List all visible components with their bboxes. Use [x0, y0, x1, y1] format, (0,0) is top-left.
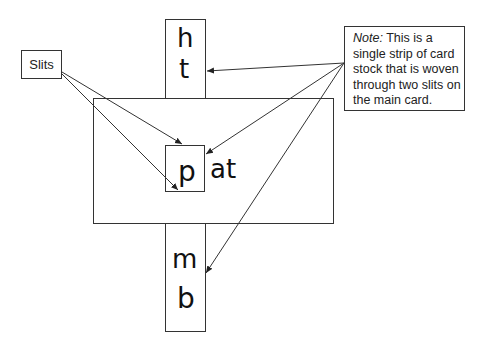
note-arrow-top-strip [207, 63, 344, 71]
arrow-layer [0, 0, 484, 348]
note-arrow-bottom-strip [206, 63, 344, 273]
note-arrow-middle-strip [206, 63, 344, 154]
diagram-canvas: h t p at m b Slits Note: This is a singl… [0, 0, 484, 348]
slits-arrow-bottom-slit [62, 74, 178, 190]
slits-arrow-top-slit [62, 72, 182, 144]
